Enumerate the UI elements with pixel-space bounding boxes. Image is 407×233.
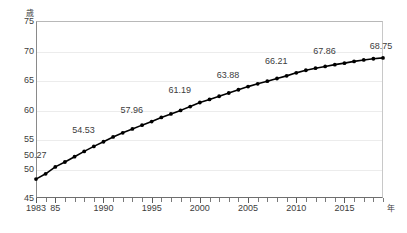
data-point-marker <box>188 105 192 109</box>
data-point-marker <box>381 56 385 60</box>
data-point-marker <box>275 77 279 81</box>
data-point-marker <box>130 127 134 131</box>
data-point-value-label: 61.19 <box>169 85 192 95</box>
x-axis-tick <box>113 198 114 202</box>
x-axis-tick <box>306 198 307 202</box>
data-point-value-label: 66.21 <box>265 56 288 66</box>
data-point-value-label: 67.86 <box>313 46 336 56</box>
data-point-marker <box>246 85 250 89</box>
x-axis-tick <box>258 198 259 202</box>
x-axis-tick <box>277 198 278 202</box>
x-axis-tick <box>335 198 336 202</box>
x-axis-tick <box>84 198 85 202</box>
line-chart: 歳 年 75706560555045 50.2754.5357.9661.196… <box>0 0 407 233</box>
data-point-marker <box>285 74 289 78</box>
x-axis-tick <box>219 198 220 202</box>
data-point-marker <box>73 155 77 159</box>
data-point-marker <box>150 120 154 124</box>
x-axis-tick <box>210 198 211 202</box>
y-axis-tick-label: 60 <box>2 105 34 114</box>
data-point-marker <box>92 144 96 148</box>
data-point-marker <box>102 140 106 144</box>
data-point-marker <box>343 61 347 65</box>
data-point-marker <box>237 88 241 92</box>
x-axis-tick <box>123 198 124 202</box>
data-point-marker <box>333 63 337 67</box>
data-point-marker <box>323 65 327 69</box>
data-point-marker <box>265 79 269 83</box>
data-point-marker <box>227 91 231 95</box>
data-point-marker <box>198 101 202 105</box>
data-point-marker <box>352 60 356 64</box>
x-axis-tick <box>354 198 355 202</box>
y-axis-tick-label: 70 <box>2 46 34 55</box>
data-point-marker <box>304 68 308 72</box>
x-axis-tick <box>383 198 384 202</box>
y-axis-tick-label: 55 <box>2 135 34 144</box>
data-point-marker <box>208 98 212 102</box>
x-axis-tick-label: 2010 <box>286 203 306 213</box>
data-point-marker <box>179 108 183 112</box>
data-point-marker <box>217 94 221 98</box>
x-axis-tick-label: 2000 <box>190 203 210 213</box>
data-point-marker <box>111 135 115 139</box>
data-point-value-label: 50.27 <box>24 150 47 160</box>
x-axis-tick <box>161 198 162 202</box>
x-axis-tick <box>373 198 374 202</box>
x-axis-tick-label: 2005 <box>238 203 258 213</box>
x-axis-tick-label: 2015 <box>334 203 354 213</box>
data-point-value-label: 54.53 <box>72 125 95 135</box>
x-axis-tick-labels: 198385199019952000200520102015 <box>0 203 407 217</box>
x-axis-tick <box>287 198 288 202</box>
data-point-marker <box>44 172 48 176</box>
x-axis-tick <box>94 198 95 202</box>
data-point-marker <box>53 165 57 169</box>
x-axis-tick <box>181 198 182 202</box>
y-axis-tick-labels: 75706560555045 <box>0 21 34 198</box>
data-point-value-label: 63.88 <box>217 70 240 80</box>
data-point-marker <box>256 82 260 86</box>
data-point-marker <box>34 177 38 181</box>
series-line <box>36 58 383 179</box>
data-point-marker <box>294 71 298 75</box>
x-axis-tick-label: 85 <box>50 203 60 213</box>
x-axis-tick <box>75 198 76 202</box>
x-axis-tick <box>46 198 47 202</box>
data-point-marker <box>159 116 163 120</box>
data-point-value-label: 68.75 <box>370 41 393 51</box>
x-axis-tick <box>171 198 172 202</box>
x-axis-tick-label: 1983 <box>26 203 46 213</box>
x-axis-tick-label: 1995 <box>142 203 162 213</box>
data-point-marker <box>371 57 375 61</box>
data-point-marker <box>63 160 67 164</box>
x-axis-tick <box>142 198 143 202</box>
x-axis-tick <box>325 198 326 202</box>
data-point-marker <box>140 123 144 127</box>
y-axis-tick-label: 65 <box>2 76 34 85</box>
data-point-marker <box>314 66 318 70</box>
data-point-value-label: 57.96 <box>120 105 143 115</box>
x-axis-tick <box>316 198 317 202</box>
y-axis-tick-label: 50 <box>2 164 34 173</box>
data-point-marker <box>82 149 86 153</box>
y-axis-tick-label: 45 <box>2 194 34 203</box>
data-point-marker <box>362 58 366 62</box>
data-point-marker <box>169 112 173 116</box>
x-axis-tick <box>238 198 239 202</box>
y-axis-tick-label: 75 <box>2 17 34 26</box>
x-axis-tick <box>65 198 66 202</box>
data-point-marker <box>121 131 125 135</box>
x-axis-tick-label: 1990 <box>93 203 113 213</box>
x-axis-tick <box>267 198 268 202</box>
x-axis-tick <box>364 198 365 202</box>
x-axis-tick <box>229 198 230 202</box>
x-axis-tick <box>190 198 191 202</box>
x-axis-tick <box>132 198 133 202</box>
